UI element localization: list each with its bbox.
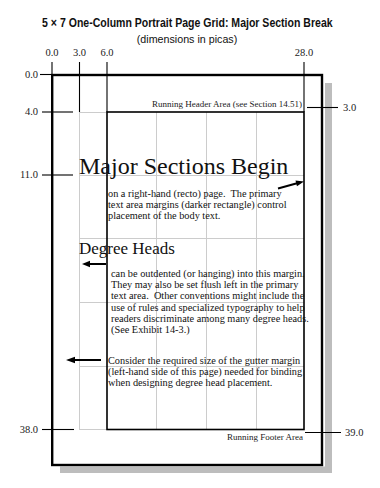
left-dimension-label: 38.0 [0, 424, 38, 436]
body-line: text area margins (darker rectangle) con… [108, 199, 287, 210]
diagram-title-text: 5 × 7 One-Column Portrait Page Grid: Maj… [42, 16, 333, 30]
degree-heads-heading: Degree Heads [79, 240, 175, 257]
body-line: placement of the body text. [108, 210, 287, 221]
page-grid-diagram: 5 × 7 One-Column Portrait Page Grid: Maj… [0, 0, 380, 488]
major-section-body: on a right-hand (recto) page. The primar… [108, 188, 287, 222]
right-dimension-label: 3.0 [343, 102, 356, 114]
body-line: Consider the required size of the gutter… [108, 355, 302, 366]
body-line: use of rules and specialized typography … [111, 302, 309, 313]
diagram-subtitle-text: (dimensions in picas) [137, 33, 237, 46]
body-line: text area. Other conventions might inclu… [111, 290, 309, 301]
body-line: (See Exhibit 14-3.) [111, 324, 309, 335]
top-dimension-label: 28.0 [289, 47, 319, 59]
left-dimension-label: 4.0 [0, 106, 38, 118]
top-dimension-label: 0.0 [37, 47, 67, 59]
running-header-label: Running Header Area (see Section 14.51) [100, 99, 302, 109]
left-dimension-label: 0.0 [0, 69, 38, 81]
diagram-subtitle: (dimensions in picas) [0, 33, 375, 46]
top-dimension-label: 3.0 [65, 47, 95, 59]
grid-drawing [0, 0, 380, 488]
right-dimension-label: 39.0 [345, 427, 363, 439]
body-line: readers discriminate among many degree h… [111, 313, 309, 324]
running-footer-label: Running Footer Area [150, 432, 303, 442]
body-line: when designing degree head placement. [108, 377, 302, 388]
body-line: on a right-hand (recto) page. The primar… [108, 188, 287, 199]
major-section-heading: Major Sections Begin [79, 154, 288, 178]
left-dimension-label: 11.0 [0, 169, 38, 181]
body-line: They may also be set flush left in the p… [111, 279, 309, 290]
body-line: (left-hand side of this page) needed for… [108, 366, 302, 377]
top-dimension-label: 6.0 [92, 47, 122, 59]
degree-heads-body: can be outdented (or hanging) into this … [111, 268, 309, 335]
gutter-note-body: Consider the required size of the gutter… [108, 355, 302, 389]
body-line: can be outdented (or hanging) into this … [111, 268, 309, 279]
diagram-title: 5 × 7 One-Column Portrait Page Grid: Maj… [0, 16, 374, 30]
